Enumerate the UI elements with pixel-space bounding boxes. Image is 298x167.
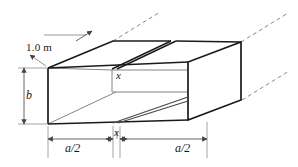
bottom-slot-groove <box>113 97 188 123</box>
height-label: b <box>26 89 32 101</box>
depth-label: 1.0 m <box>26 42 52 53</box>
half-width-right-label: a/2 <box>175 142 190 154</box>
dashed-extension-right <box>242 71 289 100</box>
half-width-left-label: a/2 <box>65 142 80 154</box>
bottom-slot-edge-outer <box>113 97 188 123</box>
figure-canvas <box>0 0 298 167</box>
front-top-edge <box>48 62 188 68</box>
engineering-figure: 1.0 m b x x a/2 a/2 <box>0 0 298 167</box>
bottom-face-diagonal-left <box>48 92 116 124</box>
right-end-face <box>188 42 241 120</box>
height-dimension <box>18 68 48 124</box>
dashed-extension-top-right <box>241 13 288 42</box>
top-slot-edge-inner <box>117 41 176 69</box>
dashed-extension-top-left <box>113 12 160 41</box>
slot-width-bottom-label: x <box>114 127 119 138</box>
depth-arrow-upper <box>76 31 92 41</box>
top-slot-groove <box>112 41 176 69</box>
depth-arrow-lower <box>30 55 46 66</box>
top-back-edge-right <box>176 41 241 42</box>
slot-width-inner-label: x <box>116 70 121 81</box>
